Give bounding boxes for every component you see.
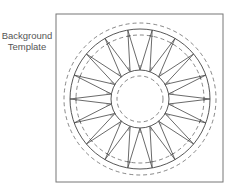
spike: [150, 121, 175, 159]
spike: [128, 126, 140, 168]
spike: [140, 30, 152, 72]
spike: [159, 114, 194, 145]
spike: [140, 126, 152, 168]
template-diagram: [0, 0, 235, 186]
spike: [128, 30, 140, 72]
spike: [105, 38, 130, 76]
seam-tick: [127, 36, 131, 37]
spike: [105, 121, 130, 159]
spike: [86, 54, 121, 85]
seam-tick: [149, 36, 153, 37]
spike: [86, 114, 121, 145]
seam-tick: [149, 162, 153, 163]
spike: [159, 54, 194, 85]
spike: [150, 38, 175, 76]
center-circle: [111, 70, 169, 128]
seam-tick: [127, 162, 131, 163]
